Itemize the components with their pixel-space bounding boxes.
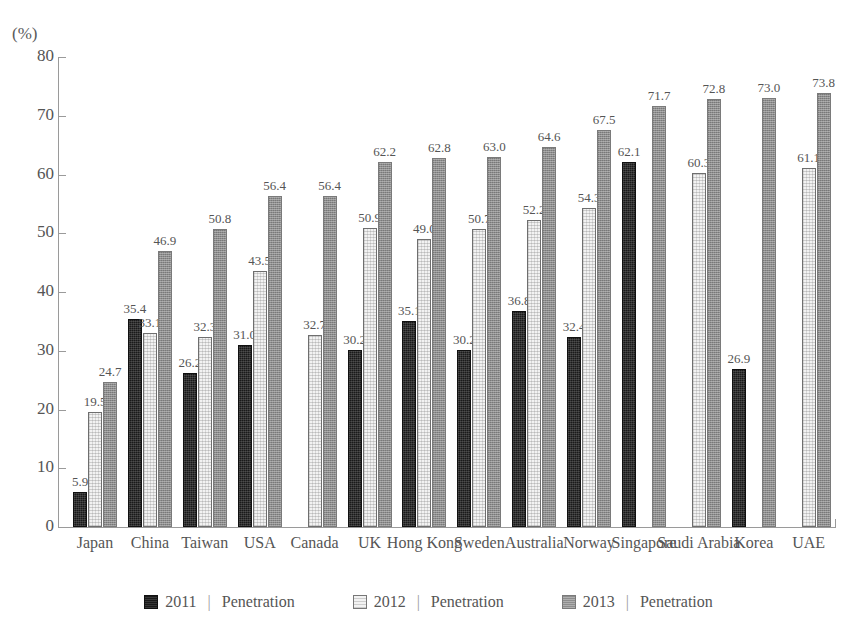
bar-2012: [582, 208, 596, 527]
bar-group: 5.919.524.7: [73, 57, 117, 527]
bar-2013: [542, 147, 556, 527]
bar-2013: [487, 157, 501, 527]
legend-item-2011[interactable]: 2011|Penetration: [144, 593, 294, 611]
bar-value-label: 56.4: [254, 179, 296, 192]
bar-2011: [567, 337, 581, 527]
bar-group: 60.372.8: [677, 57, 721, 527]
legend-year-label: 2011: [165, 593, 196, 611]
chart-legend: 2011|Penetration2012|Penetration2013|Pen…: [0, 588, 857, 616]
bar-group: 35.149.062.8: [402, 57, 446, 527]
bar-2012: [802, 168, 816, 527]
bar-2013: [707, 99, 721, 527]
bar-group: 35.433.146.9: [128, 57, 172, 527]
bar-group: 31.043.556.4: [238, 57, 282, 527]
bar-value-label: 71.7: [638, 89, 680, 102]
legend-separator: |: [626, 593, 629, 611]
legend-swatch-icon: [144, 595, 158, 609]
bar-2011: [128, 319, 142, 527]
bar-group: 36.852.264.6: [512, 57, 556, 527]
bar-2011: [622, 162, 636, 527]
bar-value-label: 62.2: [364, 145, 406, 158]
bar-2013: [268, 196, 282, 527]
bar-group: 30.250.763.0: [457, 57, 501, 527]
bar-value-label: 62.1: [608, 145, 650, 158]
bar-2011: [732, 369, 746, 527]
bar-2012: [198, 337, 212, 527]
legend-item-2013[interactable]: 2013|Penetration: [562, 593, 713, 611]
bar-2012: [253, 271, 267, 527]
bar-group: 62.171.7: [622, 57, 666, 527]
y-axis-tick-label: 0: [10, 516, 54, 536]
bar-group: 61.173.8: [787, 57, 831, 527]
bar-2013: [378, 162, 392, 527]
bar-2013: [323, 196, 337, 527]
y-axis-tick-label: 20: [10, 399, 54, 419]
bar-group: 26.973.0: [732, 57, 776, 527]
bar-value-label: 73.8: [803, 76, 845, 89]
bar-value-label: 62.8: [418, 141, 460, 154]
x-axis-line: [58, 527, 836, 528]
y-axis-tick-label: 60: [10, 164, 54, 184]
bar-value-label: 26.9: [718, 352, 760, 365]
bar-2013: [817, 93, 831, 527]
legend-metric-label: Penetration: [222, 593, 295, 611]
bar-2012: [692, 173, 706, 527]
bar-value-label: 67.5: [583, 113, 625, 126]
bar-chart: (%) 80706050403020100 5.919.524.735.433.…: [0, 0, 857, 637]
legend-year-label: 2012: [374, 593, 406, 611]
bar-2013: [158, 251, 172, 527]
bar-value-label: 56.4: [309, 179, 351, 192]
bar-2011: [512, 311, 526, 527]
y-axis-tick-label: 30: [10, 340, 54, 360]
bar-2012: [472, 229, 486, 527]
bar-value-label: 50.8: [199, 212, 241, 225]
legend-separator: |: [208, 593, 211, 611]
y-axis-tick-label: 80: [10, 46, 54, 66]
y-axis-tick-label: 70: [10, 105, 54, 125]
legend-item-2012[interactable]: 2012|Penetration: [353, 593, 504, 611]
legend-swatch-icon: [353, 595, 367, 609]
plot-area: 5.919.524.735.433.146.926.232.350.831.04…: [59, 57, 836, 527]
bar-2011: [183, 373, 197, 527]
y-axis-tick-labels: 80706050403020100: [0, 0, 54, 637]
bar-2013: [597, 130, 611, 527]
bar-2012: [363, 228, 377, 527]
bar-value-label: 63.0: [473, 140, 515, 153]
y-axis-tick-label: 10: [10, 457, 54, 477]
bar-value-label: 35.4: [114, 302, 156, 315]
bar-2012: [417, 239, 431, 527]
bar-2013: [103, 382, 117, 527]
bar-2011: [348, 350, 362, 527]
category-label: UAE: [761, 534, 857, 552]
bar-value-label: 64.6: [528, 130, 570, 143]
legend-metric-label: Penetration: [640, 593, 713, 611]
bar-group: 32.756.4: [293, 57, 337, 527]
bar-value-label: 73.0: [748, 81, 790, 94]
bar-2013: [762, 98, 776, 527]
bar-2011: [238, 345, 252, 527]
bar-2011: [402, 321, 416, 527]
bar-group: 30.250.962.2: [348, 57, 392, 527]
bar-value-label: 46.9: [144, 234, 186, 247]
bar-2011: [457, 350, 471, 527]
bar-2012: [527, 220, 541, 527]
bar-2012: [143, 333, 157, 527]
bar-value-label: 24.7: [89, 365, 131, 378]
y-axis-tick-label: 40: [10, 281, 54, 301]
y-axis-tick-label: 50: [10, 222, 54, 242]
bar-2012: [308, 335, 322, 527]
bar-group: 32.454.367.5: [567, 57, 611, 527]
bar-2011: [73, 492, 87, 527]
legend-separator: |: [417, 593, 420, 611]
bar-value-label: 72.8: [693, 82, 735, 95]
legend-year-label: 2013: [583, 593, 615, 611]
bar-2013: [213, 229, 227, 527]
bar-2012: [88, 412, 102, 527]
legend-swatch-icon: [562, 595, 576, 609]
bar-group: 26.232.350.8: [183, 57, 227, 527]
legend-metric-label: Penetration: [431, 593, 504, 611]
bar-2013: [652, 106, 666, 527]
